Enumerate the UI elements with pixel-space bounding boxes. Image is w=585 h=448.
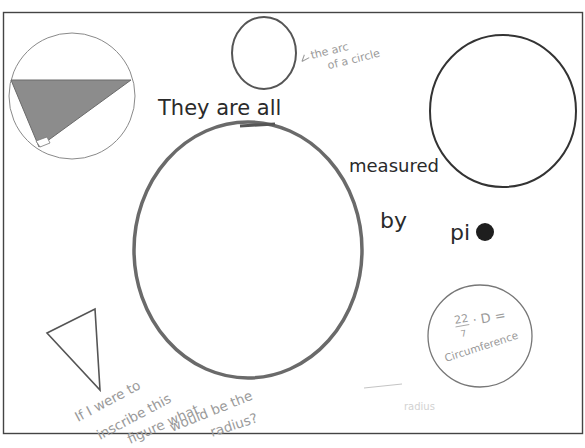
arc-label: the arc of a circle [300,33,382,78]
erased-marks: radius [364,384,435,412]
formula-operator: · D = [471,307,506,328]
shaded-right-triangle [11,80,131,147]
hand-drawn-poster: the arc of a circle They are all measure… [0,0,585,448]
arrow-icon [300,54,309,62]
pi-dot [476,223,494,241]
formula-result: Circumference [443,329,520,364]
triangle [47,309,100,390]
large-central-circle [134,122,362,378]
headline-by: by [380,208,407,233]
headline-pi: pi [450,220,470,245]
small-circle [232,17,296,89]
right-circle [430,35,576,187]
headline-line2: measured [349,155,439,176]
formula-denominator: 7 [460,328,467,339]
circle-overlap-mark [240,124,275,126]
poster-border [4,13,583,434]
headline-line1: They are all [157,96,281,120]
inscribed-triangle-circle [9,33,135,159]
erased-text: radius [404,401,435,412]
formula-circle: 22 7 · D = Circumference [428,285,532,387]
poster-canvas: the arc of a circle They are all measure… [0,0,585,448]
